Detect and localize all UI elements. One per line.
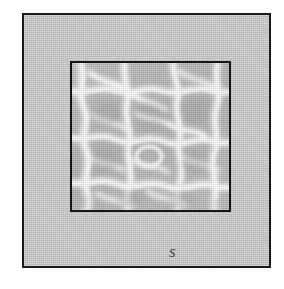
side-label-bottom: s [169,243,176,260]
figure-canvas: s s [0,0,284,289]
water-caustic-texture-icon [72,63,229,210]
inner-textured-square [70,61,231,212]
